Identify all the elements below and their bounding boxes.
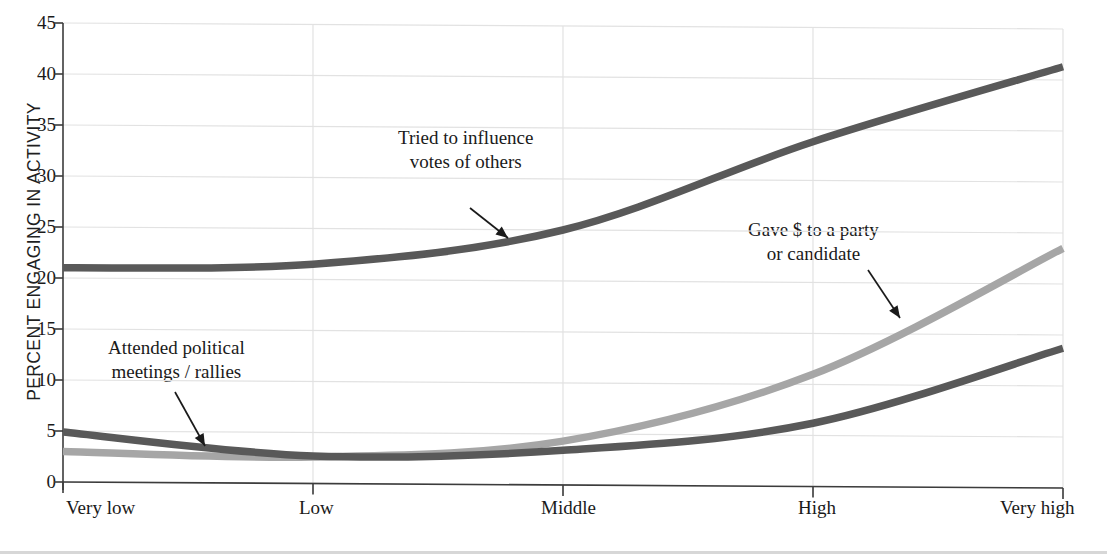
- annotation-arrow-1: [470, 208, 508, 238]
- annotation-arrow-0: [175, 392, 205, 446]
- axis-lines: [54, 23, 1063, 499]
- plot-area: [0, 0, 1107, 560]
- bottom-rule: [0, 551, 1107, 554]
- annotation-arrows: [175, 208, 900, 446]
- annotation-arrow-2: [868, 270, 900, 318]
- chart-figure: PERCENT ENGAGING IN ACTIVITY 45 40 35 30…: [0, 0, 1107, 560]
- vertical-gridlines: [313, 25, 1063, 499]
